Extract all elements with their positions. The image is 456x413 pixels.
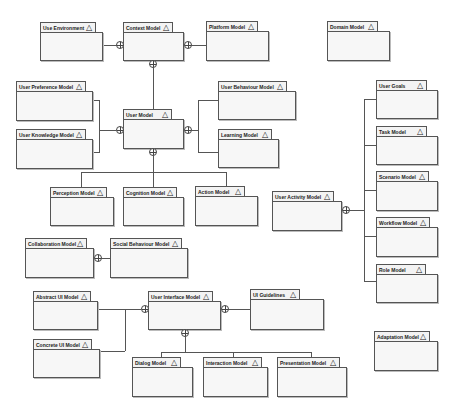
package-label: Role Model (379, 267, 406, 273)
package-user-interface-model[interactable]: User Interface Model△ (148, 291, 221, 330)
triangle-icon: △ (162, 111, 168, 119)
triangle-icon: △ (163, 24, 169, 32)
package-body (40, 32, 103, 61)
package-body (272, 201, 342, 231)
package-body (50, 197, 114, 226)
package-tab: User Knowledge Model△ (16, 129, 86, 140)
package-label: Abstract UI Model (36, 294, 79, 300)
package-learning-model[interactable]: Learning Model△ (218, 129, 279, 168)
package-interaction-model[interactable]: Interaction Model△ (203, 357, 268, 397)
package-body (206, 31, 269, 61)
package-role-model[interactable]: Role Model△ (376, 264, 438, 303)
connector-line (81, 172, 227, 173)
package-body (33, 349, 100, 378)
triangle-icon: △ (81, 293, 87, 301)
package-tab: User Interface Model△ (148, 291, 213, 302)
package-body (218, 139, 279, 168)
package-label: User Preference Model (19, 84, 73, 90)
connector-line (98, 309, 141, 310)
triangle-icon: △ (277, 83, 283, 91)
package-tab: Adaptation Model△ (374, 331, 430, 342)
package-label: User Goals (379, 83, 405, 89)
package-platform-model[interactable]: Platform Model△ (206, 21, 269, 61)
containment-circle-plus-icon (116, 41, 124, 49)
package-tab: Concrete UI Model△ (33, 339, 92, 350)
package-adaptation-model[interactable]: Adaptation Model△ (374, 331, 438, 371)
package-label: Interaction Model (206, 360, 247, 366)
package-user-model[interactable]: User Model△ (123, 109, 184, 149)
connector-line (99, 130, 116, 131)
package-tab: UI Guidelines△ (250, 289, 300, 300)
package-body (277, 367, 347, 397)
package-tab: Collaboration Model△ (25, 238, 87, 249)
connector-line (161, 352, 312, 353)
containment-circle-plus-icon (116, 126, 124, 134)
package-social-behaviour-model[interactable]: Social Behaviour Model△ (110, 238, 188, 278)
package-body (123, 119, 184, 149)
package-abstract-ui-model[interactable]: Abstract UI Model△ (33, 291, 98, 330)
package-label: Task Model (379, 129, 406, 135)
package-body (148, 301, 221, 330)
package-task-model[interactable]: Task Model△ (376, 126, 438, 165)
package-label: Social Behaviour Model (113, 241, 169, 247)
package-dialog-model[interactable]: Dialog Model△ (132, 357, 193, 397)
package-label: User Model (126, 112, 153, 118)
package-body (132, 367, 193, 397)
package-body (374, 341, 438, 371)
package-label: Collaboration Model (28, 241, 76, 247)
package-label: Cognition Model (126, 190, 165, 196)
containment-circle-plus-icon (94, 254, 102, 262)
package-scenario-model[interactable]: Scenario Model△ (376, 171, 438, 211)
connector-line (99, 100, 100, 153)
package-user-knowledge-model[interactable]: User Knowledge Model△ (16, 129, 93, 169)
triangle-icon: △ (330, 359, 336, 367)
package-tab: Action Model△ (195, 186, 245, 197)
package-user-behaviour-model[interactable]: User Behaviour Model△ (218, 81, 296, 120)
triangle-icon: △ (417, 82, 423, 90)
package-label: Concrete UI Model (36, 342, 80, 348)
package-user-goals[interactable]: User Goals△ (376, 80, 438, 119)
package-body (16, 139, 93, 169)
package-domain-model[interactable]: Domain Model△ (327, 21, 390, 61)
package-tab: Learning Model△ (218, 129, 272, 140)
package-tab: Task Model△ (376, 126, 427, 137)
package-label: User Knowledge Model (19, 132, 74, 138)
triangle-icon: △ (416, 266, 422, 274)
package-tab: Context Model△ (123, 22, 173, 33)
connector-line (125, 309, 126, 351)
package-body (110, 248, 188, 278)
package-user-activity-model[interactable]: User Activity Model△ (272, 191, 342, 231)
triangle-icon: △ (262, 131, 268, 139)
package-context-model[interactable]: Context Model△ (123, 22, 184, 61)
package-label: Dialog Model (135, 360, 166, 366)
package-collaboration-model[interactable]: Collaboration Model△ (25, 238, 94, 278)
package-tab: Dialog Model△ (132, 357, 181, 368)
triangle-icon: △ (290, 291, 296, 299)
triangle-icon: △ (420, 219, 426, 227)
package-perception-model[interactable]: Perception Model△ (50, 187, 114, 226)
connector-line (364, 281, 376, 282)
connector-line (364, 99, 376, 100)
package-cognition-model[interactable]: Cognition Model△ (123, 187, 184, 226)
package-ui-guidelines[interactable]: UI Guidelines△ (250, 289, 324, 330)
package-body (33, 301, 98, 330)
package-body (16, 91, 93, 121)
package-use-environment[interactable]: Use Environment△ (40, 22, 103, 61)
package-label: User Behaviour Model (221, 84, 274, 90)
package-body (195, 196, 258, 226)
package-tab: Interaction Model△ (203, 357, 262, 368)
package-label: Adaptation Model (377, 334, 419, 340)
package-body (327, 31, 390, 61)
triangle-icon: △ (171, 359, 177, 367)
package-label: Perception Model (53, 190, 95, 196)
package-presentation-model[interactable]: Presentation Model△ (277, 357, 347, 397)
package-tab: Cognition Model△ (123, 187, 177, 198)
package-action-model[interactable]: Action Model△ (195, 186, 258, 226)
package-concrete-ui-model[interactable]: Concrete UI Model△ (33, 339, 100, 378)
package-user-preference-model[interactable]: User Preference Model△ (16, 81, 93, 121)
package-tab: Social Behaviour Model△ (110, 238, 182, 249)
package-body (123, 197, 184, 226)
containment-circle-plus-icon (221, 305, 229, 313)
package-label: User Interface Model (151, 294, 200, 300)
package-workflow-model[interactable]: Workflow Model△ (376, 217, 438, 257)
